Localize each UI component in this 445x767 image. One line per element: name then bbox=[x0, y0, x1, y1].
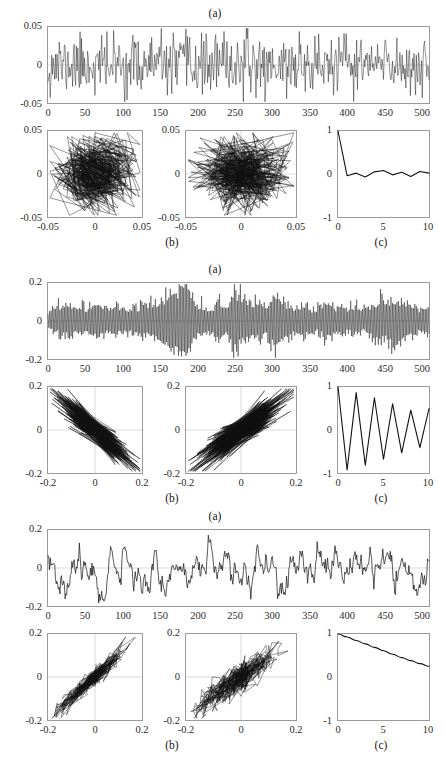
block3-p1-xtick-1: 0 bbox=[92, 725, 97, 736]
block3-label-c: (c) bbox=[375, 739, 388, 751]
block1-acf-xtick-2: 10 bbox=[423, 222, 434, 233]
block1-acf-xtick-0: 0 bbox=[335, 222, 340, 233]
block2-phase1-svg bbox=[48, 387, 142, 473]
block3-acf-svg bbox=[338, 634, 429, 720]
block3-ts-xtick-2: 100 bbox=[115, 611, 131, 622]
block2-ts-xtick-10: 500 bbox=[414, 364, 430, 375]
block1-p1-xtick-1: 0 bbox=[92, 222, 97, 233]
block1-ts-xtick-8: 400 bbox=[339, 108, 355, 119]
block3-ts-xtick-0: 0 bbox=[45, 611, 50, 622]
block3-timeseries-frame bbox=[47, 529, 430, 607]
block1-ts-xtick-7: 350 bbox=[302, 108, 318, 119]
block1-p1-ytick-1: 0 bbox=[0, 169, 42, 180]
block1-ts-xtick-10: 500 bbox=[414, 108, 430, 119]
block3-phase2-svg bbox=[186, 634, 296, 720]
block3-ts-xtick-5: 250 bbox=[227, 611, 243, 622]
block2-p1-ytick-0: 0.2 bbox=[0, 381, 42, 392]
block2-phase1-frame bbox=[47, 386, 143, 474]
block2-ts-xtick-6: 300 bbox=[264, 364, 280, 375]
block3-ts-xtick-1: 50 bbox=[80, 611, 91, 622]
block3-acf-xtick-1: 5 bbox=[380, 725, 385, 736]
block1-ts-xtick-6: 300 bbox=[264, 108, 280, 119]
block3-ts-xtick-10: 500 bbox=[414, 611, 430, 622]
block1-p2-ytick-1: 0 bbox=[138, 169, 180, 180]
block2-ts-xtick-7: 350 bbox=[302, 364, 318, 375]
block3-ts-ytick-2: -0.2 bbox=[0, 602, 42, 613]
block3-p2-xtick-0: -0.2 bbox=[178, 725, 195, 736]
block3-ts-xtick-7: 350 bbox=[302, 611, 318, 622]
block1-acf-xtick-1: 5 bbox=[380, 222, 385, 233]
block1-p1-xtick-2: 0.05 bbox=[133, 222, 151, 233]
block3-ts-ytick-0: 0.2 bbox=[0, 524, 42, 535]
block3-label-b: (b) bbox=[165, 739, 178, 751]
block3-ts-ytick-1: 0 bbox=[0, 563, 42, 574]
block1-acf-frame bbox=[337, 130, 430, 218]
block2-p1-xtick-0: -0.2 bbox=[40, 478, 57, 489]
block2-p2-xtick-0: -0.2 bbox=[178, 478, 195, 489]
block3-p1-ytick-0: 0.2 bbox=[0, 628, 42, 639]
block3-ts-xtick-9: 450 bbox=[377, 611, 393, 622]
block2-acf-frame bbox=[337, 386, 430, 474]
block1-ts-ytick-0: 0.05 bbox=[0, 21, 42, 32]
block1-ts-ytick-2: -0.05 bbox=[0, 99, 42, 110]
block2-acf-ytick-1: 0 bbox=[300, 425, 332, 436]
block1-p1-ytick-0: 0.05 bbox=[0, 125, 42, 136]
block1-p2-xtick-0: -0.05 bbox=[175, 222, 197, 233]
block2-ts-xtick-9: 450 bbox=[377, 364, 393, 375]
block3-p1-ytick-1: 0 bbox=[0, 672, 42, 683]
block3-p2-ytick-2: -0.2 bbox=[138, 716, 180, 727]
block1-timeseries-frame bbox=[47, 26, 430, 104]
block3-ts-xtick-3: 150 bbox=[152, 611, 168, 622]
block1-phase2-frame bbox=[185, 130, 297, 218]
block3-label-a: (a) bbox=[209, 510, 222, 522]
block2-ts-xtick-1: 50 bbox=[80, 364, 91, 375]
block3-acf-ytick-1: 0 bbox=[300, 672, 332, 683]
block1-label-c: (c) bbox=[375, 236, 388, 248]
block1-ts-xtick-5: 250 bbox=[227, 108, 243, 119]
block2-acf-xtick-1: 5 bbox=[380, 478, 385, 489]
block2-ts-ytick-2: -0.2 bbox=[0, 355, 42, 366]
block1-acf-ytick-1: 0 bbox=[300, 169, 332, 180]
block2-acf-xtick-2: 10 bbox=[423, 478, 434, 489]
figure-block-1: (a) 0.05 0 -0.05 0 50 100 150 200 250 30… bbox=[0, 0, 445, 250]
block1-ts-xtick-1: 50 bbox=[80, 108, 91, 119]
block3-ts-xtick-8: 400 bbox=[339, 611, 355, 622]
block2-p2-xtick-2: 0.2 bbox=[289, 478, 302, 489]
figure-block-2: (a) 0.2 0 -0.2 0 50 100 150 200 250 300 … bbox=[0, 256, 445, 506]
block2-p1-ytick-2: -0.2 bbox=[0, 469, 42, 480]
block3-phase1-svg bbox=[48, 634, 142, 720]
block2-ts-ytick-1: 0 bbox=[0, 316, 42, 327]
block3-phase1-frame bbox=[47, 633, 143, 721]
figure-block-3: (a) 0.2 0 -0.2 0 50 100 150 200 250 300 … bbox=[0, 503, 445, 767]
block2-ts-xtick-0: 0 bbox=[45, 364, 50, 375]
block1-ts-xtick-2: 100 bbox=[115, 108, 131, 119]
block2-label-a: (a) bbox=[209, 263, 222, 275]
block3-acf-xtick-2: 10 bbox=[423, 725, 434, 736]
block2-phase2-svg bbox=[186, 387, 296, 473]
block2-p1-xtick-1: 0 bbox=[92, 478, 97, 489]
block3-acf-xtick-0: 0 bbox=[335, 725, 340, 736]
block2-acf-ytick-2: -1 bbox=[300, 469, 332, 480]
block2-timeseries-svg bbox=[48, 283, 429, 359]
block2-p1-ytick-1: 0 bbox=[0, 425, 42, 436]
block1-timeseries-svg bbox=[48, 27, 429, 103]
block3-acf-ytick-2: -1 bbox=[300, 716, 332, 727]
block2-acf-xtick-0: 0 bbox=[335, 478, 340, 489]
block2-ts-ytick-0: 0.2 bbox=[0, 277, 42, 288]
block1-ts-xtick-0: 0 bbox=[45, 108, 50, 119]
block2-phase2-frame bbox=[185, 386, 297, 474]
block1-label-a: (a) bbox=[209, 7, 222, 19]
block3-p2-xtick-2: 0.2 bbox=[289, 725, 302, 736]
block1-ts-xtick-4: 200 bbox=[190, 108, 206, 119]
block3-p1-xtick-2: 0.2 bbox=[135, 725, 148, 736]
block1-phase1-svg bbox=[48, 131, 142, 217]
block1-label-b: (b) bbox=[165, 236, 178, 248]
block2-acf-ytick-0: 1 bbox=[300, 381, 332, 392]
block3-ts-xtick-4: 200 bbox=[190, 611, 206, 622]
block2-timeseries-frame bbox=[47, 282, 430, 360]
block1-acf-ytick-2: -1 bbox=[300, 213, 332, 224]
block2-p1-xtick-2: 0.2 bbox=[135, 478, 148, 489]
block3-p2-ytick-0: 0.2 bbox=[138, 628, 180, 639]
block1-acf-svg bbox=[338, 131, 429, 217]
block1-p1-ytick-2: -0.05 bbox=[0, 213, 42, 224]
